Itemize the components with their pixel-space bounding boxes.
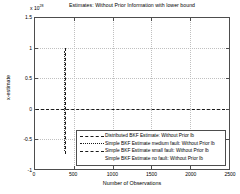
tick-x-1500	[151, 166, 152, 169]
tick-y-right-0.5	[226, 78, 229, 79]
xtick-label-2500: 2500	[224, 171, 235, 177]
legend-item-small-fault[interactable]: Simple BKF Estimate small fault: Without…	[79, 147, 223, 155]
legend-swatch-dash-dot-icon	[79, 132, 105, 140]
xtick-label-0: 0	[33, 171, 36, 177]
xtick-label-500: 500	[69, 171, 77, 177]
tick-x-top-2000	[190, 18, 191, 21]
tick-x-top-1000	[113, 18, 114, 21]
legend-label-medium-fault: Simple BKF Estimate medium fault: Withou…	[105, 140, 215, 148]
ytick-label-0.5: 0.5	[18, 75, 32, 81]
xtick-label-1500: 1500	[146, 171, 157, 177]
legend-label-no-fault: Simple BKF Estimate no fault: Without Pr…	[105, 155, 203, 163]
tick-x-2000	[190, 166, 191, 169]
gridline-y-1	[35, 48, 229, 49]
legend-swatch-blank-icon	[79, 155, 105, 163]
ytick-label-1: 1	[18, 45, 32, 51]
tick-x-500	[74, 166, 75, 169]
chart-figure: x 1028 Estimates: Without Prior Informat…	[0, 0, 240, 194]
gridline-x-500	[74, 18, 75, 169]
plot-area: Distributed BKF Estimate: Without Prior …	[34, 17, 230, 170]
chart-legend[interactable]: Distributed BKF Estimate: Without Prior …	[76, 130, 226, 166]
ytick-label-1.5: 1.5	[18, 14, 32, 20]
legend-item-no-fault[interactable]: Simple BKF Estimate no fault: Without Pr…	[79, 155, 223, 163]
series-divergence-spike-secondary	[64, 51, 65, 151]
xtick-label-2000: 2000	[185, 171, 196, 177]
legend-swatch-dotted-icon	[79, 140, 105, 148]
tick-y--0.5	[35, 139, 38, 140]
tick-x-top-1500	[151, 18, 152, 21]
tick-y-0.5	[35, 78, 38, 79]
series-divergence-spike	[65, 48, 66, 154]
legend-label-small-fault: Simple BKF Estimate small fault: Without…	[105, 147, 209, 155]
x-axis-title: Number of Observations	[34, 180, 230, 187]
legend-swatch-dashed-icon	[79, 147, 105, 155]
tick-y-right-0	[226, 109, 229, 110]
ytick-label--0.5: -0.5	[18, 136, 32, 142]
tick-y-right--0.5	[226, 139, 229, 140]
legend-label-distributed-bkf: Distributed BKF Estimate: Without Prior …	[105, 132, 194, 140]
tick-y-right-1	[226, 48, 229, 49]
tick-x-top-500	[74, 18, 75, 21]
tick-y-1	[35, 48, 38, 49]
legend-item-distributed-bkf[interactable]: Distributed BKF Estimate: Without Prior …	[79, 132, 223, 140]
tick-x-1000	[113, 166, 114, 169]
chart-title: Estimates: Without Prior Information wit…	[34, 2, 230, 9]
legend-item-medium-fault[interactable]: Simple BKF Estimate medium fault: Withou…	[79, 140, 223, 148]
xtick-label-1000: 1000	[107, 171, 118, 177]
y-axis-title: x-estimate	[5, 62, 12, 114]
ytick-label-0: 0	[18, 106, 32, 112]
ytick-label--1: -1	[18, 167, 32, 173]
